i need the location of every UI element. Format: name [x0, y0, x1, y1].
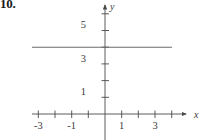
x-tick-label-pos1: 1: [113, 120, 131, 131]
x-tick-label-neg3: -3: [29, 120, 47, 131]
y-tick-label-5: 5: [70, 19, 86, 30]
y-tick-label-3: 3: [70, 53, 86, 64]
x-axis-name-label: x: [194, 110, 198, 120]
math-figure: 10.: [0, 0, 200, 140]
x-tick-label-neg1: -1: [63, 120, 81, 131]
y-tick-label-1: 1: [70, 86, 86, 97]
x-tick-label-pos3: 3: [146, 120, 164, 131]
y-axis-name-label: y: [110, 2, 114, 12]
coordinate-plane-graphic: [0, 0, 200, 140]
